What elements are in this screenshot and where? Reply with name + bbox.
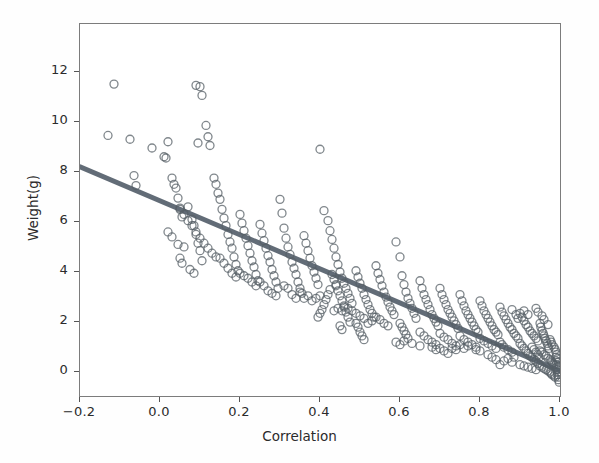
scatter-point: [198, 257, 206, 265]
scatter-point: [320, 207, 328, 215]
scatter-point: [342, 284, 350, 292]
y-tick-mark: [74, 71, 79, 72]
scatter-point: [326, 227, 334, 235]
scatter-point: [330, 244, 338, 252]
scatter-point: [218, 205, 226, 213]
scatter-point: [320, 301, 328, 309]
y-tick-mark: [74, 221, 79, 222]
scatter-point: [304, 247, 312, 255]
scatter-point: [398, 272, 406, 280]
scatter-point: [184, 203, 192, 211]
plot-canvas: [80, 24, 560, 396]
scatter-point: [336, 292, 344, 300]
scatter-point: [328, 235, 336, 243]
scatter-point: [344, 289, 352, 297]
x-tick-mark: [479, 397, 480, 402]
scatter-point: [492, 328, 500, 336]
scatter-point: [256, 220, 264, 228]
scatter-point: [110, 80, 118, 88]
scatter-point: [202, 121, 210, 129]
scatter-point: [236, 210, 244, 218]
scatter-point: [220, 214, 228, 222]
scatter-point: [178, 213, 186, 221]
y-tick-label: 10: [38, 112, 68, 127]
scatter-point: [424, 301, 432, 309]
scatter-point: [278, 209, 286, 217]
scatter-point: [332, 253, 340, 261]
x-tick-mark: [79, 397, 80, 402]
scatter-point: [258, 229, 266, 237]
x-tick-label: −0.2: [49, 404, 109, 419]
scatter-point: [496, 303, 504, 311]
y-tick-label: 6: [38, 212, 68, 227]
x-tick-label: 0.2: [209, 404, 269, 419]
scatter-point: [442, 301, 450, 309]
scatter-point: [324, 291, 332, 299]
scatter-point: [396, 253, 404, 261]
scatter-point: [104, 131, 112, 139]
scatter-point: [198, 91, 206, 99]
scatter-point: [322, 296, 330, 304]
x-tick-mark: [399, 397, 400, 402]
y-tick-mark: [74, 121, 79, 122]
x-tick-label: 0.0: [129, 404, 189, 419]
scatter-point: [164, 138, 172, 146]
y-tick-label: 0: [38, 362, 68, 377]
scatter-point: [512, 332, 520, 340]
scatter-point: [476, 297, 484, 305]
scatter-point: [280, 224, 288, 232]
scatter-point: [194, 139, 202, 147]
scatter-point: [204, 133, 212, 141]
scatter-point: [240, 227, 248, 235]
x-tick-label: 1.0: [529, 404, 589, 419]
scatter-point: [422, 296, 430, 304]
scatter-point: [400, 281, 408, 289]
scatter-point: [246, 249, 254, 257]
y-tick-mark: [74, 321, 79, 322]
x-tick-mark: [319, 397, 320, 402]
y-tick-mark: [74, 371, 79, 372]
x-tick-mark: [559, 397, 560, 402]
scatter-point: [334, 260, 342, 268]
scatter-point: [346, 294, 354, 302]
x-axis-label: Correlation: [0, 428, 599, 444]
x-tick-mark: [159, 397, 160, 402]
scatter-point: [306, 254, 314, 262]
scatter-point: [196, 247, 204, 255]
scatter-point: [460, 302, 468, 310]
scatter-point: [300, 232, 308, 240]
scatter-point: [276, 195, 284, 203]
y-axis-label: Weight(g): [25, 153, 41, 263]
scatter-plot-figure: −0.20.00.20.40.60.81.0 024681012 Correla…: [0, 0, 599, 463]
scatter-point: [238, 219, 246, 227]
y-tick-mark: [74, 171, 79, 172]
scatter-point: [426, 306, 434, 314]
scatter-point: [416, 342, 424, 350]
y-tick-label: 4: [38, 262, 68, 277]
scatter-point: [478, 302, 486, 310]
scatter-point: [362, 296, 370, 304]
x-tick-label: 0.4: [289, 404, 349, 419]
scatter-point: [130, 172, 138, 180]
scatter-point: [178, 259, 186, 267]
scatter-point: [148, 144, 156, 152]
y-tick-label: 12: [38, 62, 68, 77]
x-tick-mark: [239, 397, 240, 402]
scatter-point: [284, 243, 292, 251]
scatter-point: [326, 286, 334, 294]
scatter-point: [176, 254, 184, 262]
scatter-point: [244, 242, 252, 250]
scatter-point: [302, 239, 310, 247]
scatter-point: [392, 238, 400, 246]
y-tick-label: 8: [38, 162, 68, 177]
scatter-point: [412, 314, 420, 322]
scatter-point: [230, 253, 238, 261]
scatter-point: [206, 141, 214, 149]
y-tick-mark: [74, 271, 79, 272]
y-tick-label: 2: [38, 312, 68, 327]
plot-area: [79, 23, 561, 397]
scatter-point: [416, 277, 424, 285]
scatter-point: [440, 296, 448, 304]
scatter-point: [316, 145, 324, 153]
scatter-point: [174, 194, 182, 202]
